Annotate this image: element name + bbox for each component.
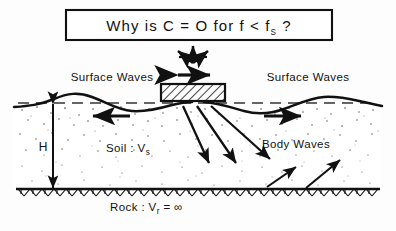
surface-waves-left-label: Surface Waves (71, 71, 154, 83)
surface-waves-right-label: Surface Waves (267, 71, 350, 83)
rock-interface (16, 189, 380, 196)
title-question: Why is C = O for f < fS ? (106, 17, 292, 37)
depth-label: H (39, 140, 48, 154)
diagram-canvas: Why is C = O for f < fS ? (0, 0, 396, 231)
body-waves-label: Body Waves (262, 138, 330, 150)
title-box: Why is C = O for f < fS ? (66, 10, 332, 40)
excitation-arrow-group (178, 46, 208, 63)
foundation-block (161, 84, 225, 101)
soil-structure-interaction-figure: Why is C = O for f < fS ? (0, 0, 396, 231)
rock-label: Rock : Vr = ∞ (110, 201, 183, 216)
